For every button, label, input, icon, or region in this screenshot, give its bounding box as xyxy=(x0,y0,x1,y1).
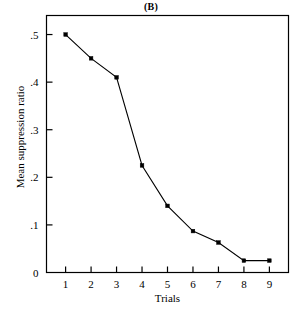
plot-frame xyxy=(47,16,289,273)
x-tick-label: 7 xyxy=(216,278,222,290)
x-tick-label: 4 xyxy=(139,278,145,290)
data-series xyxy=(64,33,271,263)
y-axis-ticks: 0.1.2.3.4.5 xyxy=(30,29,52,279)
data-point-marker xyxy=(115,76,119,80)
plot-area: 0.1.2.3.4.5 123456789 xyxy=(0,0,302,313)
y-tick-label: .4 xyxy=(30,76,39,88)
x-tick-label: 9 xyxy=(267,278,273,290)
x-tick-label: 1 xyxy=(63,278,69,290)
y-tick-label: .3 xyxy=(30,124,39,136)
y-tick-label: .5 xyxy=(30,29,39,41)
x-tick-label: 5 xyxy=(165,278,171,290)
data-point-marker xyxy=(64,33,68,37)
data-point-marker xyxy=(268,259,272,263)
data-point-marker xyxy=(217,241,221,245)
chart-figure: (B) Mean suppression ratio Trials 0.1.2.… xyxy=(0,0,302,313)
series-line xyxy=(66,35,270,261)
x-tick-label: 3 xyxy=(114,278,120,290)
data-point-marker xyxy=(191,229,195,233)
y-tick-label: .2 xyxy=(30,171,38,183)
data-point-marker xyxy=(140,164,144,168)
x-tick-label: 6 xyxy=(190,278,196,290)
x-tick-label: 2 xyxy=(88,278,94,290)
data-point-marker xyxy=(166,204,170,208)
x-tick-label: 8 xyxy=(241,278,247,290)
y-tick-label: 0 xyxy=(33,267,39,279)
axis-frame xyxy=(47,16,289,273)
data-point-marker xyxy=(242,259,246,263)
y-tick-label: .1 xyxy=(30,219,38,231)
x-axis-ticks: 123456789 xyxy=(63,267,273,290)
data-point-marker xyxy=(89,57,93,61)
